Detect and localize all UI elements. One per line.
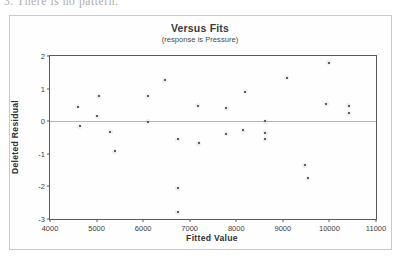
y-tick-label: 0	[41, 117, 45, 126]
data-point	[109, 131, 111, 133]
x-tick-mark	[329, 219, 330, 222]
data-point	[164, 79, 166, 81]
data-point	[177, 187, 179, 189]
y-tick-mark	[47, 186, 50, 187]
y-axis-label-text: Deleted Residual	[10, 99, 20, 173]
y-tick-mark	[47, 88, 50, 89]
data-point	[328, 62, 330, 64]
data-point	[286, 77, 288, 79]
scan-body-text: 3. There is no pattern.	[4, 0, 204, 11]
y-tick-label: -1	[38, 149, 45, 158]
data-point	[264, 132, 266, 134]
data-point	[147, 95, 149, 97]
plot-panel: 210-1-2-3 400050006000700080009000100001…	[49, 55, 377, 220]
data-point	[197, 105, 199, 107]
x-tick-label: 6000	[135, 224, 152, 233]
y-tick-label: 2	[41, 52, 45, 61]
data-point	[304, 164, 306, 166]
data-point	[79, 125, 81, 127]
data-point	[177, 211, 179, 213]
x-tick-label: 9000	[275, 224, 292, 233]
data-point	[177, 138, 179, 140]
x-tick-mark	[96, 219, 97, 222]
zero-reference-line	[50, 121, 376, 122]
y-tick-mark	[47, 121, 50, 122]
x-tick-mark	[236, 219, 237, 222]
y-tick-label: -2	[38, 182, 45, 191]
data-point	[147, 121, 149, 123]
data-point	[198, 142, 200, 144]
y-tick-mark	[47, 56, 50, 57]
data-point	[225, 107, 227, 109]
x-tick-mark	[189, 219, 190, 222]
y-tick-mark	[47, 153, 50, 154]
data-point	[348, 105, 350, 107]
chart-title: Versus Fits	[0, 22, 400, 34]
data-point	[307, 177, 309, 179]
data-point	[325, 103, 327, 105]
y-axis-label: Deleted Residual	[9, 55, 21, 218]
data-point	[242, 129, 244, 131]
data-point	[264, 138, 266, 140]
x-axis-label: Fitted Value	[49, 233, 375, 243]
scanned-page: 3. There is no pattern. Versus Fits (res…	[0, 0, 400, 260]
data-point	[264, 120, 266, 122]
x-tick-mark	[143, 219, 144, 222]
data-point	[225, 133, 227, 135]
x-tick-mark	[376, 219, 377, 222]
x-tick-mark	[282, 219, 283, 222]
x-tick-mark	[50, 219, 51, 222]
x-tick-label: 8000	[228, 224, 245, 233]
data-point	[96, 115, 98, 117]
x-tick-label: 5000	[88, 224, 105, 233]
y-tick-label: -3	[38, 215, 45, 224]
x-tick-label: 11000	[366, 224, 386, 233]
x-tick-label: 7000	[181, 224, 198, 233]
y-tick-label: 1	[41, 84, 45, 93]
x-tick-label: 4000	[42, 224, 59, 233]
x-tick-label: 10000	[319, 224, 340, 233]
data-point	[244, 91, 246, 93]
data-point	[348, 112, 350, 114]
data-point	[98, 95, 100, 97]
data-point	[114, 150, 116, 152]
data-point	[77, 106, 79, 108]
chart-subtitle: (response is Pressure)	[0, 35, 400, 44]
